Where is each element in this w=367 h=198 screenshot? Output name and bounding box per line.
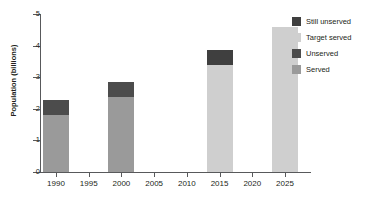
- legend-item: Target served: [292, 30, 367, 44]
- legend-swatch-icon: [292, 33, 301, 42]
- bar-segment-still-unserved: [207, 50, 233, 65]
- bar-2015: [207, 50, 233, 172]
- bar-chart: Population (billions) 012345 19901995200…: [0, 0, 367, 198]
- x-axis-tick: [89, 172, 90, 177]
- bar-segment-target-served: [207, 65, 233, 172]
- x-axis-tick: [154, 172, 155, 177]
- bar-segment-served: [43, 115, 69, 172]
- bar-segment-unserved: [108, 82, 134, 97]
- x-axis-tick: [220, 172, 221, 177]
- legend-swatch-icon: [292, 65, 301, 74]
- x-axis-tick: [252, 172, 253, 177]
- bar-segment-served: [108, 97, 134, 172]
- x-axis-tick: [187, 172, 188, 177]
- bar-1990: [43, 100, 69, 172]
- bar-segment-unserved: [43, 100, 69, 115]
- x-axis-line: [40, 172, 311, 173]
- bar-2000: [108, 82, 134, 172]
- legend-item: Unserved: [292, 46, 367, 60]
- legend-item: Served: [292, 62, 367, 76]
- legend-label: Served: [306, 65, 330, 74]
- chart-legend: Still unservedTarget servedUnservedServe…: [292, 14, 367, 78]
- legend-item: Still unserved: [292, 14, 367, 28]
- legend-swatch-icon: [292, 49, 301, 58]
- x-axis-tick: [56, 172, 57, 177]
- legend-label: Still unserved: [306, 17, 351, 26]
- x-axis-tick: [121, 172, 122, 177]
- x-axis-tick: [285, 172, 286, 177]
- legend-swatch-icon: [292, 17, 301, 26]
- legend-label: Target served: [306, 33, 351, 42]
- x-axis-tick-label: 2025: [265, 179, 305, 188]
- legend-label: Unserved: [306, 49, 338, 58]
